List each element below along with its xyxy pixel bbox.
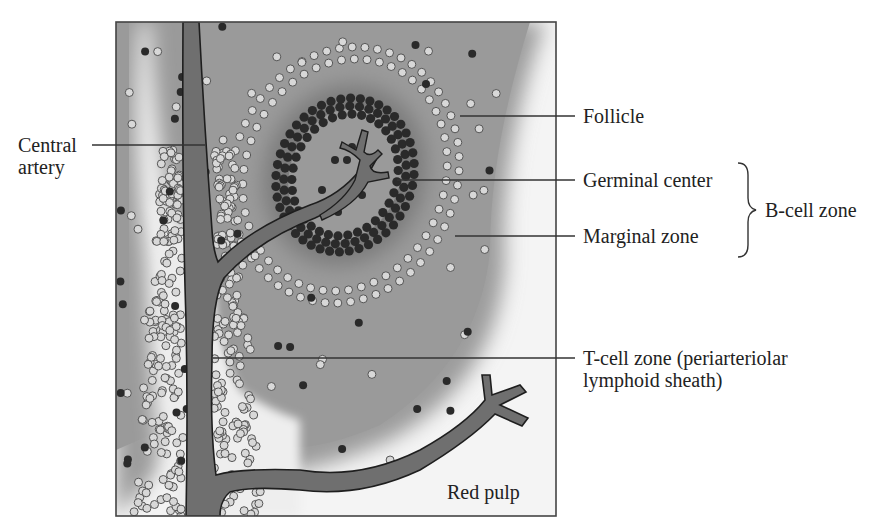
- spleen-diagram: [0, 0, 881, 528]
- label-red-pulp: Red pulp: [447, 481, 520, 503]
- label-t-cell-zone: T-cell zone (periarteriolar lymphoid she…: [583, 347, 788, 391]
- label-central-artery: Central artery: [18, 134, 77, 178]
- label-marginal-zone: Marginal zone: [583, 225, 699, 247]
- label-germinal-center: Germinal center: [583, 169, 712, 191]
- label-b-cell-zone: B-cell zone: [765, 199, 857, 221]
- b-cell-zone-brace: [738, 163, 756, 257]
- tissue-panel: [116, 22, 556, 520]
- label-follicle: Follicle: [583, 105, 644, 127]
